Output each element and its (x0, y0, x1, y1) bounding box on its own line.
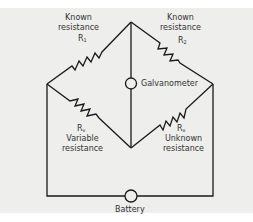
r2-symbol: R2 (178, 36, 187, 47)
rx-label: Unknown resistance (163, 134, 204, 154)
rx-label-line1: Unknown (163, 134, 204, 144)
galvanometer-symbol (126, 78, 137, 89)
battery-symbol (125, 190, 137, 202)
rv-label-line1: Variable (62, 134, 103, 144)
r2-label: Known resistance (160, 13, 201, 33)
r1-label-line2: resistance (58, 23, 99, 33)
wheatstone-bridge-circuit (0, 0, 253, 222)
rv-label-line2: resistance (62, 144, 103, 154)
rx-label-line2: resistance (163, 144, 204, 154)
rv-label: Variable resistance (62, 134, 103, 154)
r1-symbol: R1 (78, 34, 87, 45)
r1-label-line1: Known (58, 13, 99, 23)
galvanometer-label: Galvanometer (141, 79, 198, 89)
battery-label: Battery (115, 205, 145, 215)
r1-label: Known resistance (58, 13, 99, 33)
r2-label-line1: Known (160, 13, 201, 23)
r2-label-line2: resistance (160, 23, 201, 33)
